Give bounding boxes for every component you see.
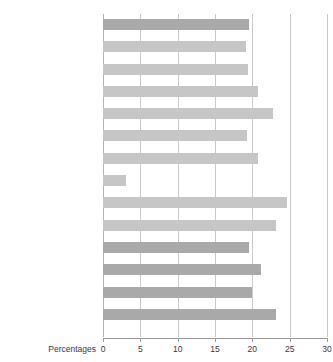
x-tick-0 bbox=[103, 338, 104, 342]
bar-row bbox=[103, 14, 327, 36]
bar bbox=[103, 197, 287, 208]
x-tick-label-20: 20 bbox=[248, 344, 257, 354]
bar bbox=[103, 86, 258, 97]
x-tick-label-15: 15 bbox=[210, 344, 219, 354]
bar-row bbox=[103, 192, 327, 214]
bar-row bbox=[103, 148, 327, 170]
bar bbox=[103, 153, 258, 164]
x-tick-label-0: 0 bbox=[101, 344, 106, 354]
bar-row bbox=[103, 59, 327, 81]
bar bbox=[103, 64, 248, 75]
bar-chart: between 1998 and 2002 Great BritainNorth… bbox=[0, 0, 333, 362]
x-tick-10 bbox=[178, 338, 179, 342]
plot-area bbox=[103, 14, 327, 337]
bar bbox=[103, 287, 252, 298]
bar-row bbox=[103, 282, 327, 304]
bar bbox=[103, 41, 246, 52]
bar-row bbox=[103, 125, 327, 147]
bar-row bbox=[103, 81, 327, 103]
bar-rows bbox=[103, 14, 327, 326]
x-axis-title: Percentages bbox=[48, 344, 96, 354]
x-tick-label-25: 25 bbox=[285, 344, 294, 354]
x-tick-25 bbox=[290, 338, 291, 342]
bar bbox=[103, 264, 261, 275]
bar-row bbox=[103, 259, 327, 281]
bar bbox=[103, 220, 276, 231]
bar-row bbox=[103, 170, 327, 192]
bar bbox=[103, 108, 273, 119]
x-tick-30 bbox=[327, 338, 328, 342]
gridline-30 bbox=[327, 14, 328, 337]
x-tick-15 bbox=[215, 338, 216, 342]
bar-row bbox=[103, 304, 327, 326]
chart-title: between 1998 and 2002 bbox=[0, 0, 333, 2]
x-tick-label-10: 10 bbox=[173, 344, 182, 354]
bar bbox=[103, 175, 126, 186]
bar bbox=[103, 242, 249, 253]
bar bbox=[103, 19, 249, 30]
bar-row bbox=[103, 103, 327, 125]
bar bbox=[103, 130, 247, 141]
bar-row bbox=[103, 237, 327, 259]
bar bbox=[103, 309, 276, 320]
bar-row bbox=[103, 215, 327, 237]
x-tick-20 bbox=[252, 338, 253, 342]
x-tick-label-5: 5 bbox=[138, 344, 143, 354]
bar-row bbox=[103, 36, 327, 58]
x-tick-label-30: 30 bbox=[322, 344, 331, 354]
x-tick-5 bbox=[140, 338, 141, 342]
